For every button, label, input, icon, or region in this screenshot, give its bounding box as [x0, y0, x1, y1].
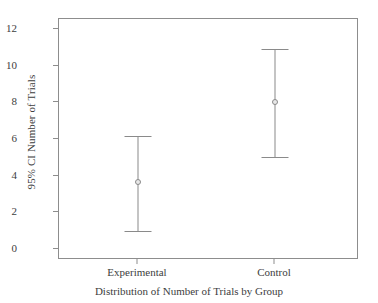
y-axis-tick-label: 4	[0, 169, 17, 181]
y-axis-tick-label: 8	[0, 95, 17, 107]
error-bar-upper-cap	[262, 49, 289, 50]
y-axis-tick-label: 2	[0, 205, 17, 217]
x-axis-tick-label-experimental: Experimental	[107, 266, 166, 278]
y-axis-tick-label: 12	[0, 22, 17, 34]
y-axis-tick-label: 10	[0, 59, 17, 71]
y-axis-title: 95% CI Number of Trials	[25, 32, 37, 232]
mean-marker	[135, 179, 141, 185]
error-bar-chart: 95% CI Number of Trials 024681012 Experi…	[0, 0, 378, 303]
x-axis-tick-mark	[274, 259, 275, 264]
plot-area	[58, 18, 358, 259]
x-axis-tick-mark	[137, 259, 138, 264]
y-axis-tick-label: 6	[0, 132, 17, 144]
error-bar-upper-cap	[125, 136, 152, 137]
error-bar-lower-cap	[125, 231, 152, 232]
mean-marker	[272, 99, 278, 105]
x-axis-tick-label-control: Control	[257, 266, 291, 278]
x-axis-title: Distribution of Number of Trials by Grou…	[0, 285, 378, 297]
y-axis-tick-label: 0	[0, 242, 17, 254]
error-bar-lower-cap	[262, 157, 289, 158]
